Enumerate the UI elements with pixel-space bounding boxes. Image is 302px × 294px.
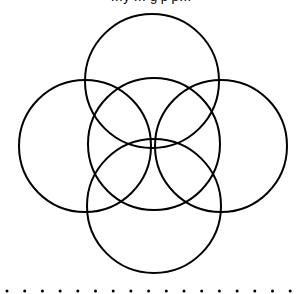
dot-marker: [200, 290, 203, 293]
dot-marker: [59, 290, 62, 293]
dot-marker: [165, 290, 168, 293]
dot-marker: [183, 290, 186, 293]
dot-marker: [253, 290, 256, 293]
dot-marker: [6, 290, 9, 293]
dot-marker: [41, 290, 44, 293]
circle-left: [19, 80, 151, 212]
dot-marker: [147, 290, 150, 293]
overlapping-circles-diagram: [0, 0, 302, 294]
dot-marker: [236, 290, 239, 293]
circle-center: [88, 78, 220, 210]
dot-marker: [129, 290, 132, 293]
circle-bottom: [87, 139, 221, 273]
circle-right: [155, 80, 287, 212]
dot-marker: [76, 290, 79, 293]
circle-top: [85, 14, 219, 148]
dot-marker: [289, 290, 292, 293]
dot-marker: [218, 290, 221, 293]
dot-marker: [94, 290, 97, 293]
dot-marker: [271, 290, 274, 293]
dot-marker: [23, 290, 26, 293]
dot-marker: [112, 290, 115, 293]
